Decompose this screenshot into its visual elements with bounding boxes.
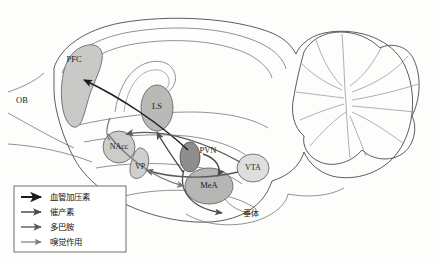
label-PFC: PFC xyxy=(66,54,81,64)
cerebellum-folia-10 xyxy=(352,106,414,112)
label-LS: LS xyxy=(152,101,162,111)
ob-base-line xyxy=(8,144,92,162)
label-NAcc: NAcc xyxy=(110,142,129,151)
ob-upper-line xyxy=(8,73,44,92)
region-shape-PVN[interactable] xyxy=(180,142,200,172)
cerebellum-folia-5 xyxy=(300,104,344,120)
label-pituitary: 垂体 xyxy=(243,208,259,218)
pathway-PVN-to-LS[interactable] xyxy=(157,132,183,172)
label-PVN: PVN xyxy=(199,145,216,155)
medulla-tail xyxy=(288,188,344,196)
legend-label-vasopressin: 血管加压素 xyxy=(50,192,90,202)
cerebellum-folia-9 xyxy=(352,84,418,100)
label-VTA: VTA xyxy=(245,163,261,172)
cerebellum-folia-8 xyxy=(352,56,408,92)
cerebellum-group xyxy=(292,32,419,164)
cerebellum-folia-12 xyxy=(350,116,366,156)
cerebellum-folia-11 xyxy=(352,112,404,144)
cerebellum-folia-2 xyxy=(316,40,342,86)
diencephalon-line-1 xyxy=(78,112,268,128)
legend-group: 血管加压素 催产素 多巴胺 嗅觉作用 xyxy=(14,186,126,252)
label-VP: VP xyxy=(135,162,146,171)
cerebellum-folia-4 xyxy=(296,92,344,98)
label-OB: OB xyxy=(16,95,28,105)
cerebellum-folia-6 xyxy=(310,112,346,146)
figure-canvas: OB PFC LS NAcc VP PVN MeA VTA 垂体 血管加压素 催… xyxy=(0,0,440,264)
legend-label-olfactory: 嗅觉作用 xyxy=(50,237,82,247)
cortical-ribbon-inner xyxy=(74,41,272,80)
cerebellum-folia-3 xyxy=(302,64,342,90)
legend-label-dopamine: 多巴胺 xyxy=(50,222,75,232)
label-MeA: MeA xyxy=(200,180,218,190)
cerebellum-folia-1 xyxy=(342,34,350,158)
brain-diagram-svg: OB PFC LS NAcc VP PVN MeA VTA 垂体 血管加压素 催… xyxy=(0,0,440,264)
ob-lower-line xyxy=(8,113,74,148)
legend-label-oxytocin: 催产素 xyxy=(50,207,74,217)
cerebellum-folia-7 xyxy=(350,46,382,86)
